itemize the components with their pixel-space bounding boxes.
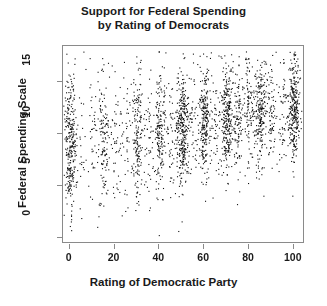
x-tick-mark [293, 244, 294, 249]
y-axis-title: Federal Spending Scale [16, 33, 28, 253]
x-axis-title: Rating of Democratic Party [0, 276, 327, 288]
x-tick-label: 20 [94, 251, 134, 263]
y-tick-mark [57, 237, 62, 238]
chart-title-line-2: by Rating of Democrats [0, 18, 327, 32]
y-tick-mark [57, 81, 62, 82]
scatter-plot-figure: Support for Federal Spending by Rating o… [0, 0, 327, 306]
y-tick-mark [57, 133, 62, 134]
plot-area [62, 45, 304, 243]
y-tick-mark [57, 185, 62, 186]
chart-title-line-1: Support for Federal Spending [0, 4, 327, 18]
x-tick-label: 80 [228, 251, 268, 263]
x-tick-label: 60 [183, 251, 223, 263]
x-tick-mark [158, 244, 159, 249]
x-tick-mark [203, 244, 204, 249]
x-tick-label: 40 [138, 251, 178, 263]
x-tick-label: 0 [49, 251, 89, 263]
x-tick-mark [69, 244, 70, 249]
x-tick-mark [114, 244, 115, 249]
chart-title: Support for Federal Spending by Rating o… [0, 4, 327, 32]
x-tick-mark [248, 244, 249, 249]
scatter-points-layer [63, 46, 304, 243]
x-tick-label: 100 [273, 251, 313, 263]
